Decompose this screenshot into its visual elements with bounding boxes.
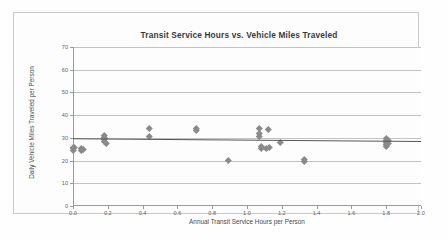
x-tick-label: 0.6 [174,210,182,216]
x-tick-label: 0.0 [69,210,77,216]
y-tick-label: 70 [62,44,68,50]
x-tick-mark [386,206,387,209]
scanned-page: Transit Service Hours vs. Vehicle Miles … [0,0,447,240]
x-tick-mark [143,206,144,209]
plot-area: 010203040506070 0.00.20.40.60.81.01.21.4… [73,47,421,206]
x-tick-mark [421,206,422,209]
x-tick-mark [247,206,248,209]
x-tick-label: 0.2 [104,210,112,216]
x-tick-mark [351,206,352,209]
x-tick-label: 0.4 [139,210,147,216]
y-tick-label: 20 [62,158,68,164]
x-tick-label: 1.8 [382,210,390,216]
trendline [73,47,421,206]
chart-container: Transit Service Hours vs. Vehicle Miles … [13,12,419,214]
y-tick-label: 40 [62,112,68,118]
x-tick-mark [212,206,213,209]
y-tick-label: 60 [62,67,68,73]
x-tick-label: 0.8 [208,210,216,216]
chart-title: Transit Service Hours vs. Vehicle Miles … [74,30,404,40]
x-tick-label: 1.6 [348,210,356,216]
x-tick-mark [108,206,109,209]
x-tick-mark [282,206,283,209]
y-axis-title: Daily Vehicle Miles Traveled per Person [28,43,35,203]
x-tick-label: 1.4 [313,210,321,216]
x-tick-mark [73,206,74,209]
x-axis-title: Annual Transit Service Hours per Person [73,218,421,225]
y-tick-label: 0 [65,203,68,209]
y-tick-label: 30 [62,135,68,141]
x-tick-label: 1.2 [278,210,286,216]
y-tick-label: 50 [62,89,68,95]
y-tick-label: 10 [62,180,68,186]
x-tick-label: 2.0 [417,210,425,216]
x-tick-label: 1.0 [243,210,251,216]
x-tick-mark [317,206,318,209]
x-tick-mark [177,206,178,209]
